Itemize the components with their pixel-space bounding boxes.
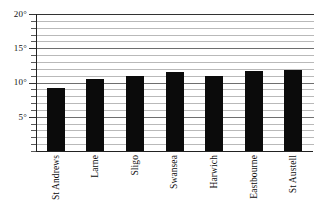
x-axis-label: Harwich bbox=[209, 155, 219, 188]
x-axis-label: Swansea bbox=[169, 155, 179, 189]
x-axis-label-slot: St Andrews bbox=[36, 153, 76, 224]
bar bbox=[166, 72, 184, 151]
x-axis-line bbox=[36, 151, 313, 152]
bar-chart: 20° 15° 10° 5° St AndrewsLarneSligoSwans… bbox=[0, 0, 321, 224]
x-axis: St AndrewsLarneSligoSwanseaHarwichEastbo… bbox=[36, 153, 313, 224]
y-tick-5 bbox=[29, 117, 36, 118]
x-axis-label-slot: Harwich bbox=[194, 153, 234, 224]
bar bbox=[205, 76, 223, 151]
x-axis-label: Sligo bbox=[130, 155, 140, 176]
x-axis-label-slot: Larne bbox=[76, 153, 116, 224]
x-axis-label-slot: St Austell bbox=[273, 153, 313, 224]
bar-series bbox=[36, 14, 313, 151]
bar bbox=[126, 76, 144, 151]
x-axis-label: Eastbourne bbox=[249, 155, 259, 199]
x-axis-label: St Austell bbox=[288, 155, 298, 193]
y-tick-15 bbox=[29, 48, 36, 49]
x-axis-label-slot: Sligo bbox=[115, 153, 155, 224]
bar bbox=[86, 79, 104, 151]
x-axis-label: Larne bbox=[90, 155, 100, 178]
y-tick-label-20: 20° bbox=[14, 10, 27, 19]
bar bbox=[47, 88, 65, 151]
x-axis-label: St Andrews bbox=[51, 155, 61, 200]
y-tick-label-5: 5° bbox=[19, 113, 28, 122]
y-tick-20 bbox=[29, 14, 36, 15]
y-axis: 20° 15° 10° 5° bbox=[0, 0, 36, 165]
bar bbox=[245, 71, 263, 151]
y-tick-10 bbox=[29, 83, 36, 84]
y-tick-label-15: 15° bbox=[14, 44, 27, 53]
x-axis-label-slot: Swansea bbox=[155, 153, 195, 224]
x-axis-label-slot: Eastbourne bbox=[234, 153, 274, 224]
y-tick-label-10: 10° bbox=[14, 78, 27, 87]
bar bbox=[284, 70, 302, 151]
